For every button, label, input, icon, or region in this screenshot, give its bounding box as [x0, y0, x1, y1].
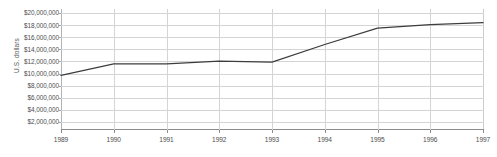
y-tick-label: $2,000,000 — [28, 118, 60, 125]
line-chart: U.S. dollars $20,000,000$18,000,000$16,0… — [0, 0, 497, 157]
y-tick-label: $16,000,000 — [24, 34, 59, 41]
x-tick-label: 1992 — [199, 136, 239, 143]
x-tick-mark — [430, 130, 431, 133]
x-tick-label: 1994 — [305, 136, 345, 143]
y-tick-label: $20,000,000 — [24, 9, 59, 16]
x-tick-label: 1997 — [463, 136, 497, 143]
y-tick-label: $6,000,000 — [28, 94, 60, 101]
x-tick-label: 1993 — [252, 136, 292, 143]
plot-area — [61, 9, 484, 130]
y-tick-label: $12,000,000 — [24, 58, 59, 65]
y-tick-label: $14,000,000 — [24, 46, 59, 53]
y-tick-label: $18,000,000 — [24, 22, 59, 29]
x-tick-mark — [219, 130, 220, 133]
x-tick-label: 1991 — [147, 136, 187, 143]
x-tick-label: 1996 — [410, 136, 450, 143]
x-tick-mark — [61, 130, 62, 133]
x-axis-tick-labels: 198919901991199219931994199519961997 — [61, 136, 484, 150]
x-tick-mark — [325, 130, 326, 133]
x-tick-label: 1990 — [94, 136, 134, 143]
x-tick-mark — [114, 130, 115, 133]
data-series-line — [61, 9, 484, 130]
y-tick-label: $10,000,000 — [24, 70, 59, 77]
x-tick-label: 1995 — [358, 136, 398, 143]
x-tick-mark — [483, 130, 484, 133]
y-tick-label: $8,000,000 — [28, 82, 60, 89]
x-tick-mark — [272, 130, 273, 133]
y-tick-label: $4,000,000 — [28, 106, 60, 113]
y-axis-tick-labels: $20,000,000$18,000,000$16,000,000$14,000… — [0, 0, 60, 132]
x-tick-label: 1989 — [41, 136, 81, 143]
x-tick-mark — [378, 130, 379, 133]
x-tick-mark — [167, 130, 168, 133]
